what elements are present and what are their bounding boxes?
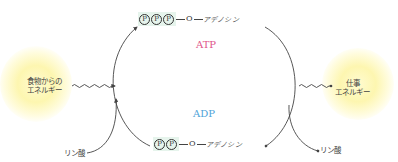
oxygen-atom: O	[185, 14, 194, 24]
phosphate-out-label: リン酸	[320, 146, 341, 155]
atp-adp-cycle-diagram: P P P O アデノシン ATP ADP P P O アデノシン 食物からの …	[0, 0, 398, 162]
phosphate-circle: P	[163, 14, 174, 25]
adp-label: ADP	[193, 108, 215, 119]
adenosine-label: アデノシン	[206, 139, 243, 149]
work-energy-label: 仕事 エネルギー	[335, 79, 370, 97]
phosphate-circle: P	[151, 14, 162, 25]
adp-molecule: P P O アデノシン	[153, 137, 242, 151]
work-energy-line2: エネルギー	[335, 88, 370, 97]
atp-label: ATP	[196, 39, 216, 50]
phosphate-circle: P	[154, 139, 165, 150]
bond-line	[179, 144, 188, 145]
bond-line	[197, 144, 206, 145]
phosphate-circle: P	[139, 14, 150, 25]
adp-phosphate-group: P P	[153, 137, 179, 151]
phosphate-in-label: リン酸	[64, 149, 85, 158]
work-energy-line1: 仕事	[335, 79, 370, 88]
bond-line	[194, 19, 203, 20]
food-energy-label: 食物からの エネルギー	[27, 77, 62, 95]
phosphate-circle: P	[166, 139, 177, 150]
atp-phosphate-group: P P P	[138, 12, 176, 26]
adenosine-label: アデノシン	[203, 14, 240, 24]
bond-line	[176, 19, 185, 20]
atp-molecule: P P P O アデノシン	[138, 12, 239, 26]
food-energy-line2: エネルギー	[27, 86, 62, 95]
oxygen-atom: O	[188, 139, 197, 149]
food-energy-line1: 食物からの	[27, 77, 62, 86]
